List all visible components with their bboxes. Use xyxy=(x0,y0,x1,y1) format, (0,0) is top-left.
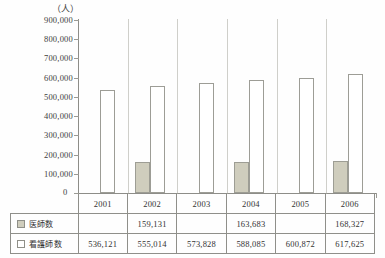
legend-label: 看護師数 xyxy=(29,240,62,249)
table-header-year: 2003 xyxy=(177,194,226,214)
y-axis-tick-label: 700,000 xyxy=(44,53,73,63)
y-axis-tick-label: 200,000 xyxy=(44,150,73,160)
y-axis-tick xyxy=(74,97,79,98)
table-row: 看護師数536,121555,014573,828588,085600,8726… xyxy=(11,234,375,254)
y-axis-tick xyxy=(74,135,79,136)
table-cell: 555,014 xyxy=(127,234,176,254)
table-cell xyxy=(177,214,226,234)
y-axis-tick xyxy=(74,155,79,156)
table-header-corner xyxy=(11,194,79,214)
table-cell xyxy=(78,214,127,234)
plot-area: 900,000800,000700,000600,000500,000400,0… xyxy=(78,19,376,194)
nurse-swatch-icon xyxy=(17,240,25,248)
data-table: 200120022003200420052006医師数159,131163,68… xyxy=(10,194,375,254)
bar-doctor-2004 xyxy=(234,162,249,193)
x-axis-tick xyxy=(376,193,377,198)
bar-nurse-2003 xyxy=(199,83,214,193)
category-separator xyxy=(227,19,228,193)
table-header-year: 2001 xyxy=(78,194,127,214)
y-axis-line xyxy=(78,19,79,194)
y-axis-tick xyxy=(74,116,79,117)
y-axis-tick-label: 800,000 xyxy=(44,34,73,44)
table-header-year: 2006 xyxy=(325,194,374,214)
table-cell: 588,085 xyxy=(226,234,275,254)
legend-cell-doctor: 医師数 xyxy=(11,214,79,234)
y-axis-tick-label: 300,000 xyxy=(44,130,73,140)
chart-figure: （人） 900,000800,000700,000600,000500,0004… xyxy=(0,0,385,258)
y-axis-tick-label: 600,000 xyxy=(44,73,73,83)
legend-cell-nurse: 看護師数 xyxy=(11,234,79,254)
table-header-row: 200120022003200420052006 xyxy=(11,194,375,214)
bar-nurse-2001 xyxy=(100,90,115,193)
table-header-year: 2005 xyxy=(276,194,325,214)
y-axis-tick xyxy=(74,20,79,21)
table-cell: 168,327 xyxy=(325,214,374,234)
table-header-year: 2002 xyxy=(127,194,176,214)
y-axis-tick xyxy=(74,58,79,59)
y-axis-tick-label: 100,000 xyxy=(44,169,73,179)
category-separator xyxy=(128,19,129,193)
table-cell xyxy=(276,214,325,234)
table-row: 医師数159,131163,683168,327 xyxy=(11,214,375,234)
y-axis-tick-label: 500,000 xyxy=(44,92,73,102)
category-separator xyxy=(277,19,278,193)
category-separator xyxy=(326,19,327,193)
bar-doctor-2006 xyxy=(333,161,348,193)
y-axis-tick xyxy=(74,78,79,79)
y-axis-tick-label: 400,000 xyxy=(44,111,73,121)
table-cell: 159,131 xyxy=(127,214,176,234)
table-cell: 163,683 xyxy=(226,214,275,234)
bar-nurse-2002 xyxy=(150,86,165,193)
table-cell: 600,872 xyxy=(276,234,325,254)
bar-nurse-2004 xyxy=(249,80,264,193)
table-cell: 617,625 xyxy=(325,234,374,254)
category-separator xyxy=(177,19,178,193)
y-axis-tick xyxy=(74,39,79,40)
legend-label: 医師数 xyxy=(29,220,54,229)
bar-doctor-2002 xyxy=(135,162,150,193)
doctor-swatch-icon xyxy=(17,220,25,228)
bar-nurse-2006 xyxy=(348,74,363,193)
y-axis-tick xyxy=(74,174,79,175)
y-axis-unit-label: （人） xyxy=(52,2,79,15)
y-axis-tick-label: 900,000 xyxy=(44,15,73,25)
table-header-year: 2004 xyxy=(226,194,275,214)
bar-nurse-2005 xyxy=(299,78,314,194)
table-cell: 573,828 xyxy=(177,234,226,254)
table-cell: 536,121 xyxy=(78,234,127,254)
